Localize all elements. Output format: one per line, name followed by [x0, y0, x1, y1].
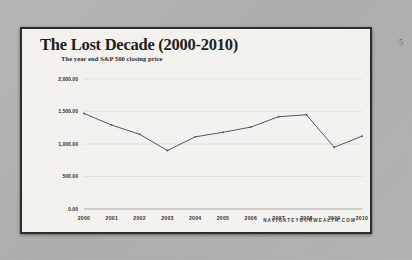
chart-y-axis-labels: 0.00500.001,000.001,500.002,000.00: [58, 76, 78, 212]
x-axis-tick-label: 2005: [217, 215, 230, 221]
chart-data-point: [139, 133, 141, 135]
x-axis-tick-label: 2001: [106, 215, 119, 221]
chart-plot-area: 0.00500.001,000.001,500.002,000.00 20002…: [22, 29, 370, 232]
y-axis-tick-label: 0.00: [68, 206, 78, 212]
presentation-slide: The Lost Decade (2000-2010) The year end…: [20, 27, 372, 234]
chart-data-point: [250, 126, 252, 128]
y-axis-tick-label: 1,500.00: [58, 108, 78, 114]
chart-data-point: [333, 146, 335, 148]
chart-data-point: [111, 124, 113, 126]
chart-series-group: [83, 113, 363, 152]
chart-gridlines: [84, 79, 362, 209]
x-axis-tick-label: 2004: [189, 215, 202, 221]
x-axis-tick-label: 2010: [356, 215, 369, 221]
screenshot-canvas: 5 The Lost Decade (2000-2010) The year e…: [0, 0, 412, 260]
page-number: 5: [399, 38, 403, 47]
y-axis-tick-label: 500.00: [62, 173, 78, 179]
chart-data-point: [361, 135, 363, 137]
chart-data-point: [83, 113, 85, 115]
chart-data-point: [222, 131, 224, 133]
chart-data-point: [166, 150, 168, 152]
x-axis-tick-label: 2002: [133, 215, 146, 221]
x-axis-tick-label: 2000: [78, 215, 91, 221]
footer-branding: NAVIGATEYOURWEALTH.COM: [263, 218, 356, 223]
chart-data-point: [194, 136, 196, 138]
chart-data-point: [278, 116, 280, 118]
line-chart: 0.00500.001,000.001,500.002,000.00 20002…: [22, 29, 370, 232]
x-axis-tick-label: 2003: [161, 215, 174, 221]
x-axis-tick-label: 2006: [245, 215, 258, 221]
y-axis-tick-label: 1,000.00: [58, 141, 78, 147]
chart-data-point: [305, 114, 307, 116]
y-axis-tick-label: 2,000.00: [58, 76, 78, 82]
